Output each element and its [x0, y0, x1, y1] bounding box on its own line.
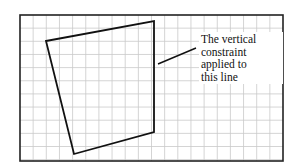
annotation-line-4: this line [201, 71, 281, 84]
grid-diagram [0, 0, 298, 168]
annotation-line-1: The vertical [201, 33, 281, 46]
annotation-line-2: constraint [201, 46, 281, 59]
leader-line [158, 48, 196, 64]
annotation-line-3: applied to [201, 58, 281, 71]
annotation-label: The vertical constraint applied to this … [199, 32, 283, 84]
